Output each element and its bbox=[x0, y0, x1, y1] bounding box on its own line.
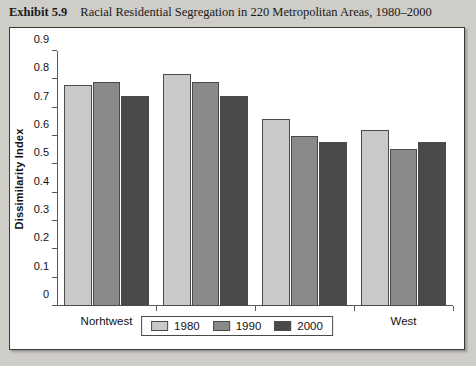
x-axis-tick bbox=[453, 306, 454, 311]
exhibit-number: Exhibit 5.9 bbox=[9, 5, 67, 20]
bar-group: West bbox=[354, 51, 453, 306]
y-axis-tick-label: 0.2 bbox=[34, 231, 49, 243]
legend-swatch-1980 bbox=[151, 321, 168, 331]
plot-area: Dissimilarity Index 0.90.80.70.60.50.40.… bbox=[57, 51, 453, 306]
y-axis-tick-label: 0.6 bbox=[34, 118, 49, 130]
bar-group: Norhtwest bbox=[57, 51, 156, 306]
exhibit-caption: Exhibit 5.9 Racial Residential Segregati… bbox=[0, 0, 476, 25]
x-axis-tick bbox=[156, 306, 157, 311]
y-axis-title: Dissimilarity Index bbox=[13, 128, 25, 229]
y-axis-tick-label: 0.8 bbox=[34, 61, 49, 73]
bar-2000-midwest bbox=[220, 96, 248, 306]
legend-label-1990: 1990 bbox=[236, 320, 262, 332]
chart-legend: 198019902000 bbox=[141, 316, 333, 336]
x-axis-tick bbox=[354, 306, 355, 311]
legend-item-1980[interactable]: 1980 bbox=[151, 320, 200, 332]
bar-1990-south bbox=[291, 136, 319, 306]
y-axis-tick-label: 0.7 bbox=[34, 90, 49, 102]
x-axis-tick-label: West bbox=[391, 315, 417, 327]
legend-swatch-1990 bbox=[213, 321, 230, 331]
bar-1990-norhtwest bbox=[93, 82, 121, 306]
y-axis-tick-label: 0.4 bbox=[34, 175, 49, 187]
legend-label-1980: 1980 bbox=[174, 320, 200, 332]
bar-1990-midwest bbox=[192, 82, 220, 306]
y-axis-tick-label: 0.1 bbox=[34, 260, 49, 272]
bar-group: Midwest bbox=[156, 51, 255, 306]
exhibit-title: Racial Residential Segregation in 220 Me… bbox=[80, 5, 431, 20]
legend-item-2000[interactable]: 2000 bbox=[274, 320, 323, 332]
legend-swatch-2000 bbox=[274, 321, 291, 331]
bar-1990-west bbox=[390, 149, 418, 306]
bar-2000-south bbox=[319, 142, 347, 306]
bar-1980-norhtwest bbox=[64, 85, 92, 306]
bar-2000-norhtwest bbox=[121, 96, 149, 306]
bar-1980-midwest bbox=[163, 74, 191, 306]
legend-item-1990[interactable]: 1990 bbox=[213, 320, 262, 332]
bar-group: South bbox=[255, 51, 354, 306]
legend-label-2000: 2000 bbox=[297, 320, 323, 332]
y-axis-tick-label: 0.9 bbox=[34, 33, 49, 45]
figure-frame: Dissimilarity Index 0.90.80.70.60.50.40.… bbox=[9, 27, 465, 350]
y-axis-tick-label: 0.5 bbox=[34, 146, 49, 158]
bar-1980-south bbox=[262, 119, 290, 306]
x-axis-tick bbox=[255, 306, 256, 311]
y-axis-tick-label: 0.3 bbox=[34, 203, 49, 215]
y-axis-tick-label: 0 bbox=[43, 288, 49, 300]
bar-1980-west bbox=[361, 130, 389, 306]
x-axis-tick-label: Norhtwest bbox=[81, 315, 133, 327]
bar-2000-west bbox=[418, 142, 446, 306]
